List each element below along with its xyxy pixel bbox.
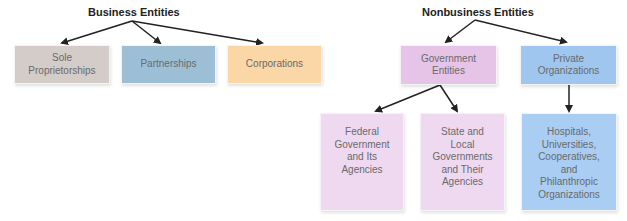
arrow-to-private-organizations [475,20,566,42]
state-local-governments-box: State and Local Governments and Their Ag… [420,113,505,211]
federal-government-box: Federal Government and Its Agencies [320,113,404,211]
private-organizations-label: Private Organizations [538,53,600,78]
partnerships-label: Partnerships [140,58,196,71]
state-local-governments-label: State and Local Governments and Their Ag… [432,126,492,189]
government-entities-label: Government Entities [421,53,476,78]
arrow-to-state-local-governments [440,85,457,111]
corporations-label: Corporations [246,58,303,71]
corporations-box: Corporations [227,45,322,84]
government-entities-box: Government Entities [400,45,497,85]
business-entities-title: Business Entities [88,6,180,18]
hospitals-universities-box: Hospitals, Universities, Cooperatives, a… [521,113,617,211]
arrow-to-corporations [132,21,262,43]
arrow-to-sole-proprietorships [62,21,132,43]
arrow-to-federal-government [376,85,440,111]
sole-proprietorships-label: Sole Proprietorships [28,52,95,77]
partnerships-box: Partnerships [121,45,216,84]
sole-proprietorships-box: Sole Proprietorships [14,45,110,84]
hospitals-universities-label: Hospitals, Universities, Cooperatives, a… [538,126,600,201]
federal-government-label: Federal Government and Its Agencies [334,126,389,176]
nonbusiness-entities-title: Nonbusiness Entities [422,6,534,18]
arrow-to-government-entities [446,20,475,42]
private-organizations-box: Private Organizations [520,45,617,85]
